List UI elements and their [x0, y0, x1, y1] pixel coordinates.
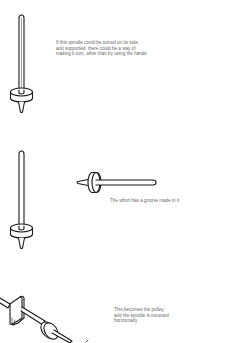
- horizontal-spindle-drawing: [72, 168, 162, 200]
- upright-spindle-drawing-2: [6, 148, 40, 252]
- caption-line: making it turn, other than by using the …: [56, 51, 147, 57]
- caption-upright-spindle: If this spindle could be turned on its s…: [56, 40, 147, 57]
- caption-line: This becomes the pulley,: [114, 307, 169, 313]
- caption-mounted-spindle: This becomes the pulley, and the spindle…: [114, 307, 169, 324]
- caption-line: The whorl has a groove made in it: [110, 198, 179, 204]
- mounted-spindle-drawing: [0, 294, 100, 343]
- caption-horizontal-spindle: The whorl has a groove made in it: [110, 198, 179, 204]
- upright-spindle-drawing: [6, 12, 40, 116]
- caption-line: horizontally: [114, 318, 169, 324]
- caption-line: If this spindle could be turned on its s…: [56, 40, 147, 46]
